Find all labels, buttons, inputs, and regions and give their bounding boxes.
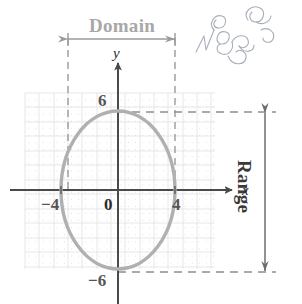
y-axis-label: y	[113, 46, 120, 61]
handwritten-scribble-icon	[196, 7, 274, 64]
x-tick-label-minus-4: −4	[41, 196, 59, 213]
x-axis-label: x	[242, 183, 249, 198]
graph-canvas	[0, 0, 302, 304]
x-tick-label-4: 4	[172, 196, 181, 213]
origin-label: 0	[104, 196, 113, 213]
y-tick-label-6: 6	[98, 92, 107, 109]
y-tick-label-minus-6: −6	[88, 272, 106, 289]
domain-range-ellipse-figure: Domain Range y x 6 −6 −4 4 0	[0, 0, 302, 304]
grid	[25, 93, 215, 269]
domain-title: Domain	[66, 16, 178, 35]
